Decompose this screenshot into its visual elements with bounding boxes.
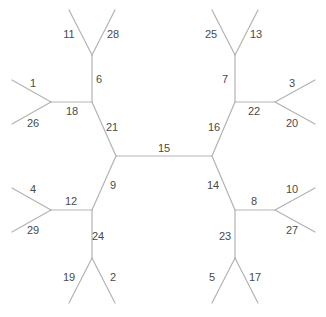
edge-label: 28: [107, 28, 119, 40]
phylogenetic-tree: 1521916146181128126122442919272225133208…: [0, 0, 326, 317]
edge-label: 14: [207, 179, 219, 191]
edge-label: 25: [205, 28, 217, 40]
edge-label: 16: [208, 121, 220, 133]
edge-label: 26: [27, 117, 39, 129]
edge-label: 7: [222, 73, 228, 85]
edge-label: 21: [106, 121, 118, 133]
edge-label: 20: [286, 117, 298, 129]
edge-label: 1: [30, 77, 36, 89]
edge-label: 23: [219, 230, 231, 242]
edge-label: 12: [65, 195, 77, 207]
edge-label: 29: [27, 224, 39, 236]
edge-label: 6: [96, 73, 102, 85]
edge-label: 17: [249, 271, 261, 283]
edge-label: 19: [63, 271, 75, 283]
edge-label: 27: [286, 224, 298, 236]
tree-edge: [212, 258, 235, 303]
edge-label: 22: [248, 105, 260, 117]
edge-label: 11: [63, 28, 74, 40]
edge-label: 15: [158, 142, 170, 154]
edge-label: 24: [92, 230, 104, 242]
edge-label: 13: [250, 28, 262, 40]
edge-label: 8: [251, 195, 257, 207]
edge-label: 3: [289, 77, 295, 89]
tree-edges: [12, 10, 315, 303]
edge-label: 5: [209, 271, 215, 283]
edge-label: 4: [30, 183, 36, 195]
edge-label: 2: [110, 271, 116, 283]
edge-label: 9: [110, 179, 116, 191]
edge-label: 10: [286, 183, 298, 195]
edge-label: 18: [66, 105, 78, 117]
